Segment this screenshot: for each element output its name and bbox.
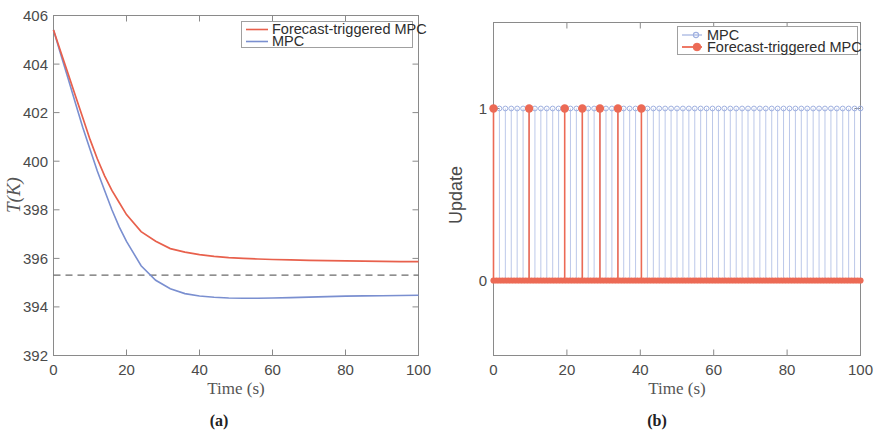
panel-b-xtick-60: 60 — [705, 361, 722, 378]
panel-b-xlabel: Time (s) — [648, 379, 705, 398]
forecast-baseline-marker-icon — [857, 277, 863, 283]
panel-b-forecast-baseline — [490, 277, 863, 283]
panel-b-legend-label-forecast: Forecast-triggered MPC — [707, 39, 862, 55]
panel-a-caption: (a) — [0, 412, 438, 430]
panel-b-xtick-20: 20 — [559, 361, 576, 378]
panel-a-legend: Forecast-triggered MPC MPC — [242, 21, 427, 49]
panel-b-ylabel: Update — [446, 166, 466, 224]
panel-a: 392 394 396 398 400 402 404 406 0 20 40 … — [0, 0, 438, 434]
panel-a-axes-frame — [54, 16, 419, 356]
panel-a-xtick-20: 20 — [118, 361, 135, 378]
forecast-marker-circle-filled-icon — [578, 104, 586, 112]
panel-a-xtick-0: 0 — [49, 361, 57, 378]
panel-a-ytick-402: 402 — [23, 104, 48, 121]
figure-container: 392 394 396 398 400 402 404 406 0 20 40 … — [0, 0, 876, 434]
panel-a-y-ticks — [54, 16, 419, 356]
forecast-marker-circle-filled-icon — [489, 104, 497, 112]
panel-a-x-ticks — [54, 16, 419, 356]
panel-b-ytick-1: 1 — [479, 100, 487, 117]
panel-b-ytick-0: 0 — [479, 272, 487, 289]
panel-b-caption: (b) — [438, 412, 876, 430]
forecast-marker-circle-filled-icon — [637, 104, 645, 112]
panel-a-xtick-100: 100 — [406, 361, 431, 378]
panel-a-xtick-80: 80 — [337, 361, 354, 378]
forecast-marker-circle-filled-icon — [525, 104, 533, 112]
panel-a-legend-label-mpc: MPC — [272, 33, 304, 49]
panel-a-xtick-40: 40 — [191, 361, 208, 378]
panel-a-ytick-398: 398 — [23, 201, 48, 218]
panel-b-xtick-100: 100 — [848, 361, 873, 378]
panel-a-ytick-400: 400 — [23, 153, 48, 170]
panel-b-xtick-0: 0 — [489, 361, 497, 378]
panel-a-ylabel: T(K) — [3, 177, 25, 213]
panel-b: 1 0 0 20 40 60 80 100 Time (s) Update — [438, 0, 876, 434]
panel-a-ytick-396: 396 — [23, 250, 48, 267]
panel-a-xlabel: Time (s) — [207, 379, 264, 398]
panel-a-ytick-394: 394 — [23, 298, 48, 315]
legend-marker-circle-filled-icon — [693, 43, 701, 51]
panel-b-forecast-markers — [489, 104, 645, 112]
forecast-marker-circle-filled-icon — [560, 104, 568, 112]
panel-b-plot: 1 0 0 20 40 60 80 100 Time (s) Update — [438, 0, 876, 400]
panel-a-ytick-404: 404 — [23, 56, 48, 73]
forecast-marker-circle-filled-icon — [614, 104, 622, 112]
panel-a-forecast-curve — [54, 30, 419, 262]
panel-b-legend: MPC Forecast-triggered MPC — [678, 27, 862, 55]
panel-a-xtick-60: 60 — [264, 361, 281, 378]
panel-b-forecast-stems — [494, 109, 642, 281]
panel-a-ytick-406: 406 — [23, 7, 48, 24]
forecast-marker-circle-filled-icon — [596, 104, 604, 112]
panel-b-xtick-80: 80 — [779, 361, 796, 378]
panel-a-plot: 392 394 396 398 400 402 404 406 0 20 40 … — [0, 0, 438, 400]
panel-a-ytick-392: 392 — [23, 347, 48, 364]
panel-b-xtick-40: 40 — [632, 361, 649, 378]
panel-b-mpc-stems — [494, 109, 861, 281]
